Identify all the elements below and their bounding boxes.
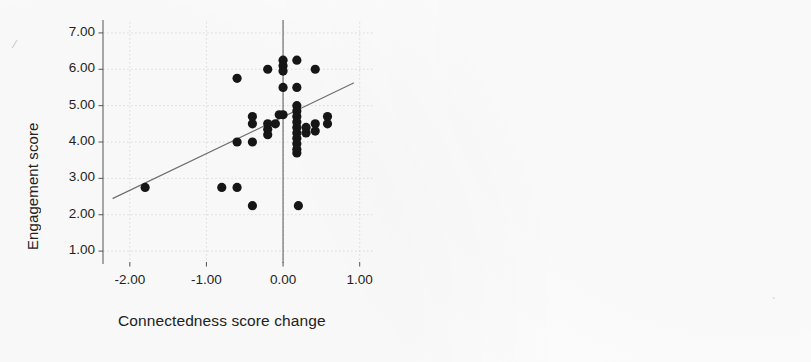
x-axis-title-left: Connectedness score change: [118, 312, 326, 330]
two-panel-scatter-figure: Engagement score 1.002.003.004.005.006.0…: [0, 0, 811, 362]
data-point-group: [141, 56, 333, 211]
data-point: [217, 183, 226, 192]
data-point: [278, 83, 287, 92]
y-axis-title-left: Engagement score: [24, 44, 41, 250]
y-tick-label: 1.00: [47, 242, 95, 257]
scan-artifact-mark-2: `: [772, 296, 776, 308]
y-tick-label: 3.00: [47, 169, 95, 184]
data-point: [232, 137, 241, 146]
data-point: [248, 201, 257, 210]
scan-artifact-mark: ⁄: [14, 38, 16, 50]
data-point: [323, 119, 332, 128]
data-point: [232, 183, 241, 192]
data-point: [278, 66, 287, 75]
data-point: [311, 65, 320, 74]
data-point: [278, 110, 287, 119]
data-point: [292, 148, 301, 157]
y-tick-label: 2.00: [47, 206, 95, 221]
y-tick-label: 4.00: [47, 133, 95, 148]
data-point: [301, 128, 310, 137]
data-point: [248, 112, 257, 121]
data-point: [311, 126, 320, 135]
data-point: [141, 183, 150, 192]
y-tick-label: 6.00: [47, 60, 95, 75]
plot-area-left: 1.002.003.004.005.006.007.00-2.00-1.000.…: [103, 22, 375, 262]
data-point: [263, 65, 272, 74]
data-point: [248, 137, 257, 146]
data-point: [271, 119, 280, 128]
x-tick-label: -1.00: [176, 272, 236, 287]
data-point: [292, 56, 301, 65]
x-tick-label: 0.00: [253, 272, 313, 287]
y-tick-label: 7.00: [47, 24, 95, 39]
data-point: [292, 83, 301, 92]
plot-svg-left: [103, 22, 375, 262]
y-tick-label: 5.00: [47, 97, 95, 112]
data-point: [294, 201, 303, 210]
x-tick-label: -2.00: [100, 272, 160, 287]
data-point: [232, 74, 241, 83]
chart-panel-right: Complex score change -2.50-1.50-0.500.50…: [406, 0, 811, 362]
x-tick-label: 1.00: [330, 272, 390, 287]
chart-panel-left: Engagement score 1.002.003.004.005.006.0…: [0, 0, 406, 362]
